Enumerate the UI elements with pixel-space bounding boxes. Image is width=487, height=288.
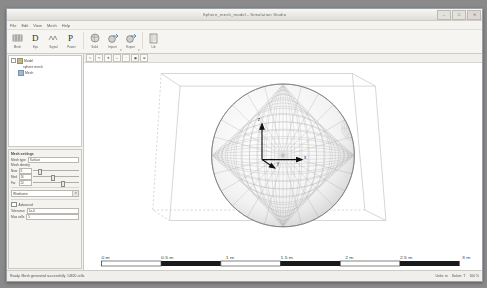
- slider-near-track[interactable]: [33, 169, 80, 173]
- menu-item-help[interactable]: Help: [62, 23, 70, 28]
- toolbar-button-import-label: Import: [108, 45, 117, 49]
- toolbar-button-eps-label: Eps: [33, 45, 38, 49]
- toolbar-button-export[interactable]: Export: [122, 31, 139, 52]
- slider-far-value[interactable]: 24: [19, 180, 32, 186]
- slider-med-track[interactable]: [33, 175, 80, 179]
- toolbar-button-mesh-label: Mesh: [14, 45, 21, 49]
- scale-bar: 0 m 0.5 m 1 m 1.5 m 2 m 2.5 m 3 m: [84, 252, 482, 270]
- zoom-in-icon[interactable]: +: [113, 54, 121, 62]
- export-chevron-down-icon[interactable]: ▾: [138, 48, 140, 52]
- dielectric-icon: D: [30, 32, 41, 44]
- property-mesh-type-value[interactable]: Surface: [28, 157, 79, 163]
- menu-item-view[interactable]: View: [33, 23, 42, 28]
- viewport-toolbar: ↖ ↻ ✥ + − ▣ ⊞: [84, 54, 482, 63]
- folder-icon: [17, 58, 23, 64]
- tree-item-mesh-label: Mesh: [25, 71, 33, 75]
- fit-icon[interactable]: ▣: [131, 54, 139, 62]
- screenshot-root: Sphere_mesh_model - Simulation Studio – …: [0, 0, 487, 288]
- rotate-icon[interactable]: ↻: [95, 54, 103, 62]
- menu-item-edit[interactable]: Edit: [21, 23, 28, 28]
- maximize-button[interactable]: □: [452, 10, 466, 20]
- chevron-down-icon[interactable]: ▾: [72, 191, 78, 196]
- scale-tick-2_5: 2.5 m: [400, 255, 413, 259]
- advanced-label: Advanced: [19, 203, 33, 207]
- mesh-grid-icon: [12, 32, 23, 44]
- toolbar-button-signal[interactable]: Signal: [45, 31, 62, 52]
- close-button[interactable]: ✕: [467, 10, 481, 20]
- application-window: Sphere_mesh_model - Simulation Studio – …: [6, 8, 483, 282]
- zoom-out-icon[interactable]: −: [122, 54, 130, 62]
- property-maxcells-row: Max cells 5: [11, 214, 79, 219]
- waveform-icon: [48, 32, 59, 44]
- menu-item-file[interactable]: File: [10, 23, 16, 28]
- scale-tick-1: 1 m: [226, 255, 235, 259]
- slider-far-track[interactable]: [33, 181, 80, 185]
- property-tolerance-label: Tolerance: [11, 209, 25, 213]
- slider-near[interactable]: Near 8: [11, 168, 79, 173]
- title-bar: Sphere_mesh_model - Simulation Studio – …: [7, 9, 482, 21]
- main-body: - Model sphere mesh Mesh Mesh settings: [7, 54, 482, 270]
- svg-text:P: P: [68, 33, 73, 43]
- scale-tick-1_5: 1.5 m: [281, 255, 294, 259]
- toolbar-button-eps[interactable]: D Eps: [27, 31, 44, 52]
- properties-panel: Mesh settings Mesh type Surface Mesh den…: [8, 149, 82, 269]
- status-bar: Ready. Mesh generated successfully: 1482…: [7, 270, 482, 281]
- display-mode-value: Wireframe: [12, 192, 72, 196]
- properties-divider-2: [11, 199, 79, 200]
- toolbar-group-3: Lib: [145, 31, 163, 52]
- toolbar-separator-1: [83, 32, 84, 49]
- scale-tick-0: 0 m: [101, 255, 110, 259]
- display-mode-select[interactable]: Wireframe ▾: [11, 190, 79, 197]
- toolbar-button-power[interactable]: P Power: [63, 31, 80, 52]
- toolbar-button-library[interactable]: Lib: [145, 31, 162, 52]
- toolbar-button-library-label: Lib: [151, 45, 155, 49]
- component-icon: [18, 70, 24, 76]
- toolbar-button-export-label: Export: [126, 45, 135, 49]
- properties-title: Mesh settings: [11, 152, 79, 156]
- toolbar-button-power-label: Power: [67, 45, 76, 49]
- sphere-mesh-render: x z y: [84, 63, 482, 252]
- cursor-icon[interactable]: ↖: [86, 54, 94, 62]
- slider-far-label: Far: [11, 181, 18, 185]
- slider-far[interactable]: Far 24: [11, 180, 79, 185]
- power-p-icon: P: [66, 32, 77, 44]
- import-arrow-icon: [107, 32, 119, 44]
- tree-expander-icon[interactable]: -: [11, 58, 16, 63]
- tree-item-model[interactable]: - Model: [11, 58, 79, 63]
- status-solver: Solver: T: [452, 274, 466, 278]
- toolbar-button-mesh[interactable]: Mesh: [9, 31, 26, 52]
- tree-item-sphere-mesh[interactable]: sphere mesh: [11, 64, 79, 69]
- window-title: Sphere_mesh_model - Simulation Studio: [203, 12, 287, 17]
- sphere-wireframe: [212, 84, 367, 227]
- scale-tick-0_5: 0.5 m: [161, 255, 174, 259]
- sphere-solid-icon: [89, 32, 101, 44]
- slider-far-knob[interactable]: [61, 181, 65, 187]
- 3d-canvas[interactable]: x z y: [84, 63, 482, 252]
- slider-med[interactable]: Med 16: [11, 174, 79, 179]
- property-tolerance-row: Tolerance 1e-6: [11, 208, 79, 213]
- menu-item-mesh[interactable]: Mesh: [47, 23, 57, 28]
- slider-group-label: Mesh density: [11, 163, 79, 167]
- left-dock: - Model sphere mesh Mesh Mesh settings: [7, 54, 84, 270]
- export-arrow-icon: [125, 32, 137, 44]
- axes-icon[interactable]: ⊞: [140, 54, 148, 62]
- property-mesh-type-label: Mesh type: [11, 158, 26, 162]
- book-icon: [148, 32, 159, 44]
- scale-bar-segments: [101, 261, 459, 266]
- toolbar-button-solid[interactable]: Solid: [86, 31, 103, 52]
- toolbar-button-import[interactable]: Import: [104, 31, 121, 52]
- slider-med-label: Med: [11, 175, 18, 179]
- tree-item-model-label: Model: [24, 59, 33, 63]
- advanced-checkbox-row[interactable]: Advanced: [11, 202, 79, 207]
- pan-icon[interactable]: ✥: [104, 54, 112, 62]
- main-toolbar: Mesh D Eps Signal: [7, 30, 482, 54]
- status-progress: 100 %: [469, 274, 479, 278]
- scale-tick-3: 3 m: [462, 255, 471, 259]
- minimize-button[interactable]: –: [437, 10, 451, 20]
- advanced-checkbox[interactable]: [11, 202, 17, 208]
- viewport-area: ↖ ↻ ✥ + − ▣ ⊞: [84, 54, 482, 270]
- scale-tick-2: 2 m: [345, 255, 354, 259]
- property-maxcells-value[interactable]: 5: [26, 214, 79, 220]
- tree-item-mesh[interactable]: Mesh: [11, 70, 79, 75]
- model-tree[interactable]: - Model sphere mesh Mesh: [8, 55, 82, 147]
